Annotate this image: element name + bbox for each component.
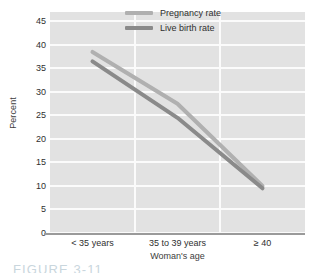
legend-label: Pregnancy rate [160,8,221,18]
y-axis-tick-labels: 051015202530354045 [26,12,46,233]
legend-label: Live birth rate [160,23,215,33]
y-axis-tick-label: 20 [26,134,46,144]
y-axis-tick-label: 30 [26,87,46,97]
x-axis-tick-labels: < 35 years35 to 39 years≥ 40 [50,238,305,252]
x-axis-tick-label: < 35 years [71,238,113,248]
y-axis-tick-label: 15 [26,157,46,167]
y-axis-tick-label: 5 [26,204,46,214]
x-axis-tick-label: 35 to 39 years [149,238,206,248]
legend-item: Pregnancy rate [125,5,253,20]
figure-container: Percent 051015202530354045 Pregnancy rat… [0,0,312,273]
plot-area [50,12,305,233]
y-axis-tick-label: 45 [26,16,46,26]
legend-item: Live birth rate [125,20,253,35]
series-line [93,61,263,188]
legend-swatch-icon [125,11,153,15]
x-axis-title: Woman's age [50,251,305,261]
legend-swatch-icon [125,26,153,30]
y-axis-tick-label: 0 [26,228,46,238]
x-axis-tick-label: ≥ 40 [254,238,271,248]
y-axis-tick-label: 10 [26,181,46,191]
series-lines [50,12,305,233]
y-axis-tick-label: 25 [26,110,46,120]
y-axis-tick-label: 40 [26,40,46,50]
chart-legend: Pregnancy rateLive birth rate [125,5,253,35]
y-axis-title: Percent [8,83,18,143]
figure-caption: FIGURE 3-11 [13,262,103,273]
y-axis-tick-label: 35 [26,63,46,73]
x-axis-line [44,233,305,235]
